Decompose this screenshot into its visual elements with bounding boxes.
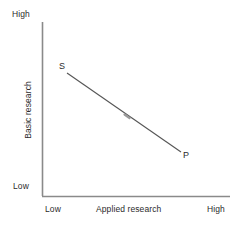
chart-canvas: [0, 0, 235, 227]
x-axis-title: Applied research: [96, 204, 161, 214]
y-axis-high-label: High: [12, 9, 30, 19]
data-point-label-p: P: [183, 150, 189, 160]
x-axis-high-label: High: [207, 204, 225, 214]
chart-figure: High Low Basic research Low Applied rese…: [0, 0, 235, 227]
series-line-trade-off: [67, 73, 181, 152]
x-axis-low-label: Low: [45, 204, 61, 214]
midpoint-tick-marker: [125, 115, 130, 119]
y-axis-title: Basic research: [23, 55, 35, 165]
data-point-label-s: S: [59, 61, 65, 71]
y-axis-low-label: Low: [13, 181, 29, 191]
